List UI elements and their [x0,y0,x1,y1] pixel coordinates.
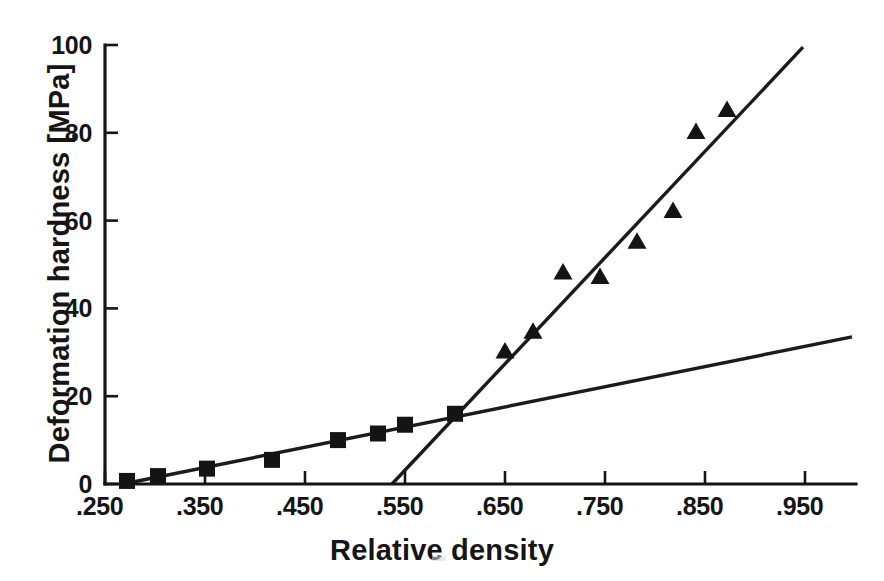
data-point-square [397,417,413,433]
data-point-square [264,452,280,468]
chart-plot-area [0,0,884,581]
data-point-triangle [628,232,647,249]
data-point-square [447,406,463,422]
x-tick-label: .350 [176,492,223,521]
x-tick-label: .850 [676,492,723,521]
data-point-triangle [554,263,573,280]
data-point-square [199,461,215,477]
x-tick-label: .450 [276,492,323,521]
data-markers-group [119,101,737,489]
data-point-triangle [496,342,515,359]
x-tick-label: .750 [576,492,623,521]
x-tick-label: .250 [76,492,123,521]
data-point-square [150,468,166,484]
scan-artifact [432,556,446,561]
fit-lines-group [123,47,852,484]
x-tick-label: .650 [476,492,523,521]
x-axis-title: Relative density [0,534,884,567]
data-point-square [370,426,386,442]
y-ticks-group [105,45,118,484]
y-axis-title: Deformation hardness [MPa] [43,29,76,499]
data-point-triangle [664,202,683,219]
data-point-square [119,473,135,489]
x-tick-label: .950 [776,492,823,521]
data-point-square [330,432,346,448]
data-point-triangle [718,101,737,118]
chart-figure: 020406080100 .250.350.450.550.650.750.85… [0,0,884,581]
fit-line [123,337,852,484]
data-point-triangle [687,123,706,140]
x-tick-label: .550 [376,492,423,521]
